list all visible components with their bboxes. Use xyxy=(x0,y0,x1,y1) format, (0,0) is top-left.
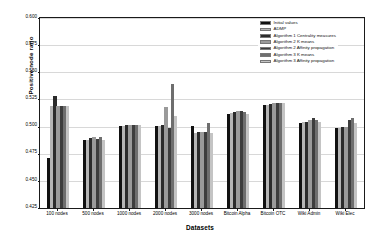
x-tick-label: 500 nodes xyxy=(82,211,103,216)
x-tick-label: 1000 nodes xyxy=(117,211,141,216)
legend-label: Algorithm 2 Affinity propagation xyxy=(274,46,335,50)
y-tick-label: 0.600 xyxy=(0,15,37,20)
y-tick-label: 0.425 xyxy=(0,205,37,210)
bar-group xyxy=(155,18,177,208)
chart-figure: Positive node ratio 0.4250.4500.4750.500… xyxy=(0,0,390,244)
y-tick-label: 0.500 xyxy=(0,123,37,128)
x-tick-label: Wiki Admin xyxy=(298,211,321,216)
legend-swatch-icon xyxy=(260,60,271,64)
x-tick-label: Wiki Elec xyxy=(336,211,355,216)
bar-group xyxy=(191,18,213,208)
legend-label: Initial values xyxy=(274,21,298,25)
y-tick-label: 0.525 xyxy=(0,96,37,101)
x-tick-label: 2000 nodes xyxy=(153,211,177,216)
bar xyxy=(246,114,249,208)
y-tick-label: 0.550 xyxy=(0,69,37,74)
x-tick-label: 100 nodes xyxy=(46,211,67,216)
legend-item[interactable]: Algorithm 1 Centrality measures xyxy=(260,33,336,39)
bar-group xyxy=(83,18,105,208)
legend-item[interactable]: Algorithm 2 K means xyxy=(260,39,336,45)
legend-label: Algorithm 3 Affinity propagation xyxy=(274,59,335,63)
legend-item[interactable]: Algorithm 3 K means xyxy=(260,52,336,58)
bar xyxy=(318,122,321,208)
legend-item[interactable]: Initial values xyxy=(260,20,336,26)
legend-item[interactable]: Algorithm 3 Affinity propagation xyxy=(260,58,336,64)
y-tick-label: 0.475 xyxy=(0,150,37,155)
legend-label: ADMP xyxy=(274,27,287,31)
legend-swatch-icon xyxy=(260,47,271,51)
legend-swatch-icon xyxy=(260,21,271,25)
legend-swatch-icon xyxy=(260,34,271,38)
legend-label: Algorithm 2 K means xyxy=(274,40,315,44)
legend-swatch-icon xyxy=(260,53,271,57)
chart-legend: Initial valuesADMPAlgorithm 1 Centrality… xyxy=(258,19,338,66)
legend-label: Algorithm 3 K means xyxy=(274,53,315,57)
y-tick-label: 0.575 xyxy=(0,42,37,47)
legend-item[interactable]: Algorithm 2 Affinity propagation xyxy=(260,46,336,52)
bar-group xyxy=(227,18,249,208)
y-tick-mark xyxy=(38,208,40,209)
x-tick-label: Bitcoin OTC xyxy=(261,211,286,216)
bar xyxy=(66,106,69,208)
bar xyxy=(354,123,357,208)
legend-swatch-icon xyxy=(260,40,271,44)
bar xyxy=(282,103,285,208)
bar-group xyxy=(335,18,357,208)
x-tick-label: 3000 nodes xyxy=(189,211,213,216)
bar-group xyxy=(119,18,141,208)
bar xyxy=(174,116,177,208)
bar xyxy=(102,140,105,208)
x-axis-title: Datasets xyxy=(35,224,365,231)
legend-swatch-icon xyxy=(260,28,271,32)
y-tick-label: 0.450 xyxy=(0,178,37,183)
bar-group xyxy=(47,18,69,208)
bar xyxy=(210,133,213,208)
bar xyxy=(138,125,141,208)
x-tick-label: Bitcoin Alpha xyxy=(224,211,251,216)
legend-label: Algorithm 1 Centrality measures xyxy=(274,34,336,38)
legend-item[interactable]: ADMP xyxy=(260,26,336,32)
